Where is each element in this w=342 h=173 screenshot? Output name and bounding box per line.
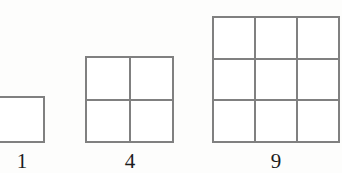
grid-cell <box>212 58 256 102</box>
grid-cell <box>296 16 340 60</box>
grid-cell <box>212 99 256 143</box>
figure-label-one: 1 <box>2 151 42 172</box>
grid-cell <box>0 96 45 143</box>
grid-cell <box>129 56 175 101</box>
grid-cell <box>85 99 131 144</box>
grid-cell <box>296 99 340 143</box>
grid-cell <box>296 58 340 102</box>
grid-cell <box>85 56 131 101</box>
grid-figure-1 <box>0 97 44 142</box>
grid-cell <box>212 16 256 60</box>
grid-cell <box>254 16 298 60</box>
grid-cell <box>254 58 298 102</box>
grid-figure-9 <box>213 17 339 142</box>
grid-cell <box>254 99 298 143</box>
figure-label-nine: 9 <box>256 151 296 172</box>
grid-figure-4 <box>86 57 173 142</box>
figure-label-four: 4 <box>110 151 150 172</box>
square-numbers-diagram: 1 4 9 <box>0 0 342 173</box>
grid-cell <box>129 99 175 144</box>
